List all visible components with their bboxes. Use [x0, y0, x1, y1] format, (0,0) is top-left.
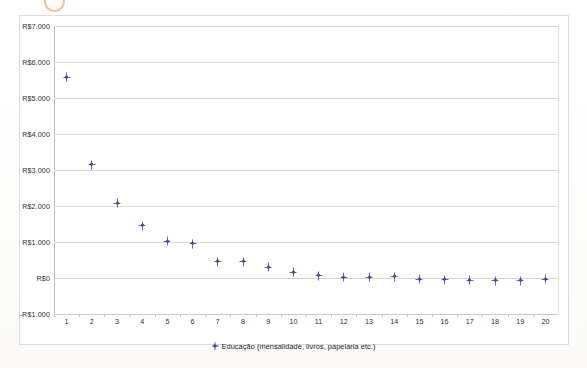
gridline-5000	[54, 98, 558, 99]
data-point	[240, 257, 247, 266]
x-axis-tickmark-15	[407, 314, 408, 317]
x-axis-tickmark-8	[230, 314, 231, 317]
x-axis-label-1: 1	[65, 317, 69, 326]
gridline-7000	[54, 26, 558, 27]
x-axis-tickmark-20	[533, 314, 534, 317]
plot-right-edge	[558, 26, 559, 314]
gridline-4000	[54, 134, 558, 135]
data-point	[366, 273, 373, 282]
data-point	[214, 257, 221, 266]
x-axis-tickmark-16	[432, 314, 433, 317]
gridline-2000	[54, 206, 558, 207]
x-axis-tickmark-14	[382, 314, 383, 317]
gridline-3000	[54, 170, 558, 171]
x-axis-label-20: 20	[541, 317, 549, 326]
x-axis-label-14: 14	[390, 317, 398, 326]
x-axis-tickmark-11	[306, 314, 307, 317]
data-point	[114, 199, 121, 208]
x-axis-label-4: 4	[140, 317, 144, 326]
gridline-1000	[54, 242, 558, 243]
x-axis-label-6: 6	[191, 317, 195, 326]
data-point	[517, 276, 524, 285]
data-point	[88, 160, 95, 169]
x-axis-tickmark-12	[331, 314, 332, 317]
legend-label-educacao: Educação (mensalidade, livros, papelaria…	[222, 342, 376, 351]
x-axis-label-11: 11	[315, 317, 322, 326]
y-axis-label-6000: R$6.000	[2, 58, 50, 67]
data-point	[265, 263, 272, 272]
x-axis-label-17: 17	[466, 317, 474, 326]
y-axis-label-1000: R$1.000	[2, 238, 50, 247]
x-axis-tickmark-19	[508, 314, 509, 317]
x-axis-tickmark-17	[457, 314, 458, 317]
y-axis-label-3000: R$3.000	[2, 166, 50, 175]
data-point	[542, 275, 549, 284]
x-axis-tickmark-9	[256, 314, 257, 317]
x-axis-tickmark-2	[79, 314, 80, 317]
data-point	[466, 276, 473, 285]
data-point	[416, 275, 423, 284]
x-axis-tickmark-18	[482, 314, 483, 317]
data-point	[290, 268, 297, 277]
y-axis-labels-group: R$7.000R$6.000R$5.000R$4.000R$3.000R$2.0…	[0, 0, 50, 368]
data-point	[63, 73, 70, 82]
data-point	[441, 275, 448, 284]
chart-legend: Educação (mensalidade, livros, papelaria…	[0, 334, 587, 352]
x-axis-label-5: 5	[165, 317, 169, 326]
x-axis-label-16: 16	[441, 317, 449, 326]
x-axis-tickmark-10	[281, 314, 282, 317]
data-point	[315, 271, 322, 280]
x-axis-tickmark-6	[180, 314, 181, 317]
y-axis-label--1000: -R$1.000	[2, 310, 50, 319]
x-axis-label-12: 12	[340, 317, 348, 326]
x-axis-label-19: 19	[516, 317, 524, 326]
x-axis-tickmark-5	[155, 314, 156, 317]
data-point	[492, 276, 499, 285]
x-axis-label-2: 2	[90, 317, 94, 326]
y-axis-label-2000: R$2.000	[2, 202, 50, 211]
x-axis-tickmark-1	[54, 314, 55, 317]
x-axis-tickmark-3	[104, 314, 105, 317]
x-axis-tickmark-4	[130, 314, 131, 317]
x-axis-tickmark-7	[205, 314, 206, 317]
x-axis-label-8: 8	[241, 317, 245, 326]
y-axis-label-4000: R$4.000	[2, 130, 50, 139]
y-axis-label-5000: R$5.000	[2, 94, 50, 103]
x-axis-label-13: 13	[365, 317, 373, 326]
x-axis-tickmark-13	[356, 314, 357, 317]
y-axis-label-7000: R$7.000	[2, 22, 50, 31]
x-axis-label-15: 15	[415, 317, 423, 326]
gridline-0	[54, 278, 558, 279]
x-axis-label-9: 9	[266, 317, 270, 326]
data-point	[189, 239, 196, 248]
series-marker-educacao	[212, 342, 219, 350]
data-point	[340, 273, 347, 282]
x-axis-label-3: 3	[115, 317, 119, 326]
x-axis-label-10: 10	[289, 317, 297, 326]
data-point	[164, 237, 171, 246]
x-axis-label-7: 7	[216, 317, 220, 326]
gridline-6000	[54, 62, 558, 63]
data-point	[391, 272, 398, 281]
legend-entry-educacao: Educação (mensalidade, livros, papelaria…	[212, 341, 376, 351]
data-point	[139, 221, 146, 230]
x-axis-label-18: 18	[491, 317, 499, 326]
y-axis-label-0: R$0	[2, 274, 50, 283]
